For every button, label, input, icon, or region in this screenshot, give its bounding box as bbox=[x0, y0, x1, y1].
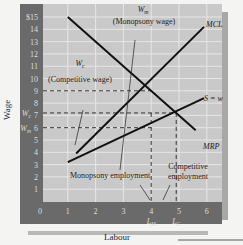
x-tick-label: 0 bbox=[38, 207, 42, 216]
y-tick-label: 4 bbox=[34, 148, 38, 157]
chart: 1234567891011121314$15 0123456 Wm(Monops… bbox=[0, 0, 243, 245]
monopsony-employment-label: Monopsony employment bbox=[70, 171, 151, 180]
x-tick-label: 2 bbox=[94, 207, 98, 216]
y-tick-label: 8 bbox=[34, 99, 38, 108]
y-tick-label: $15 bbox=[26, 13, 38, 22]
s-equals-w-label: S = w bbox=[204, 94, 223, 103]
mcl-label: MCL bbox=[205, 20, 223, 29]
y-tick-label: 7 bbox=[34, 111, 38, 120]
monopsony-wage-label: (Monopsony wage) bbox=[113, 17, 176, 26]
x-tick-label: 3 bbox=[121, 207, 125, 216]
y-tick-label: 6 bbox=[34, 124, 38, 133]
competitive-employment-label: employment bbox=[168, 172, 209, 181]
x-axis-label: Labour bbox=[104, 232, 130, 242]
y-tick-label: 9 bbox=[34, 87, 38, 96]
x-tick-label: 6 bbox=[205, 207, 209, 216]
x-tick-label: 1 bbox=[66, 207, 70, 216]
y-axis-label: Wage bbox=[2, 100, 12, 120]
y-tick-label: 13 bbox=[30, 38, 38, 47]
y-tick-label: 2 bbox=[34, 173, 38, 182]
y-tick-label: 1 bbox=[34, 185, 38, 194]
y-tick-label: 3 bbox=[34, 161, 38, 170]
x-tick-label: 4 bbox=[149, 207, 153, 216]
y-tick-label: 11 bbox=[30, 62, 38, 71]
y-tick-label: 10 bbox=[30, 75, 38, 84]
y-tick-label: 12 bbox=[30, 50, 38, 59]
x-tick-label: 5 bbox=[177, 207, 181, 216]
y-tick-label: 14 bbox=[30, 25, 38, 34]
competitive-wage-label: (Competitive wage) bbox=[48, 75, 112, 84]
shadow-right bbox=[222, 12, 228, 220]
competitive-employment-label: Competitive bbox=[168, 162, 208, 171]
mrp-label: MRP bbox=[202, 142, 220, 151]
y-tick-label: 5 bbox=[34, 136, 38, 145]
